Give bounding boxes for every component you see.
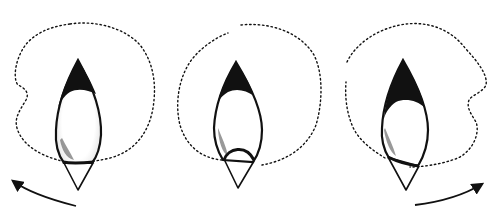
rotation-arrow-left-icon [13, 181, 76, 206]
diagram-canvas: Three lens-shaped figures with dotted ou… [0, 0, 500, 208]
diagram-svg [0, 0, 500, 208]
figure-right [346, 24, 487, 190]
figure-middle [178, 24, 321, 188]
rotation-arrow-right-icon [415, 184, 482, 205]
band-left [63, 162, 94, 163]
figure-left [15, 23, 154, 190]
lower-cone-middle [224, 159, 254, 188]
lower-cone-left [64, 163, 93, 190]
